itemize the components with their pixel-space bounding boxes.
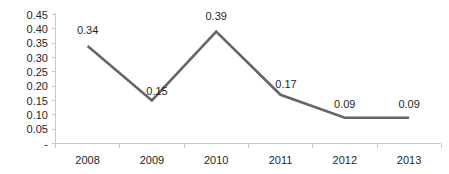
chart-canvas: 0.45 0.40 0.35 0.30 0.25 0.20 0.15 0.10 … [0,0,449,174]
line-chart: 0.45 0.40 0.35 0.30 0.25 0.20 0.15 0.10 … [0,0,449,174]
point-label-2008: 0.34 [77,24,98,36]
x-tick-label-2010: 2010 [204,154,228,166]
x-tick-label-2013: 2013 [397,154,421,166]
y-tick-label-0.40: 0.40 [27,23,48,35]
point-label-2013: 0.09 [398,98,419,110]
x-tick-label-2009: 2009 [140,154,164,166]
y-tick-label-0.30: 0.30 [27,52,48,64]
point-label-2010: 0.39 [205,10,226,22]
x-tick-label-2012: 2012 [333,154,357,166]
y-tick-label-0.05: 0.05 [27,123,48,135]
series-line-1 [88,32,410,118]
x-tick-label-2011: 2011 [269,154,293,166]
x-tick-label-2008: 2008 [75,154,99,166]
y-tick-label-0.45: 0.45 [27,9,48,21]
y-tick-marks [52,15,56,144]
point-label-2012: 0.09 [334,98,355,110]
y-tick-label-0.15: 0.15 [27,95,48,107]
y-tick-label-0.25: 0.25 [27,66,48,78]
y-tick-label-0.20: 0.20 [27,80,48,92]
y-tick-label-zero: - [44,138,48,150]
y-tick-label-0.35: 0.35 [27,37,48,49]
point-label-2009: 0.15 [146,85,167,97]
point-label-2011: 0.17 [275,78,296,90]
y-tick-label-0.10: 0.10 [27,109,48,121]
x-tick-marks [56,144,442,149]
